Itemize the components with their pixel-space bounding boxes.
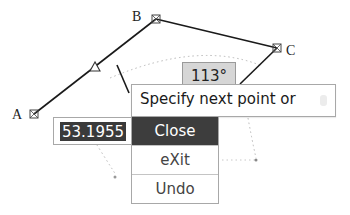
menu-item-exit[interactable]: eXit xyxy=(132,145,218,174)
prompt-text: Specify next point or xyxy=(140,90,296,108)
menu-item-undo[interactable]: Undo xyxy=(132,174,218,203)
tracking-arc-right xyxy=(248,118,256,158)
arrow-down-icon[interactable] xyxy=(320,95,327,106)
segment-b-c xyxy=(156,19,277,48)
length-value[interactable]: 53.1955 xyxy=(60,122,126,141)
command-prompt-tooltip: Specify next point or xyxy=(131,84,336,117)
command-options-menu: Close eXit Undo xyxy=(131,117,219,204)
cursor-line xyxy=(117,65,129,93)
point-label-c: C xyxy=(286,44,295,58)
tracking-point-right xyxy=(255,159,258,162)
length-input[interactable]: 53.1955 xyxy=(53,117,132,145)
segment-c-rubberband xyxy=(240,48,277,84)
tracking-point-left xyxy=(114,176,117,179)
vertex-marker-a-icon[interactable] xyxy=(30,110,38,118)
menu-item-close[interactable]: Close xyxy=(132,117,218,145)
point-label-b: B xyxy=(132,10,141,24)
point-label-a: A xyxy=(12,108,22,122)
angle-tooltip[interactable]: 113° xyxy=(182,62,236,86)
